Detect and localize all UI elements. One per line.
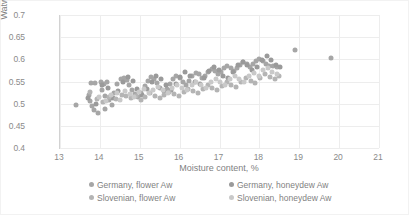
data-point bbox=[259, 58, 264, 63]
data-point bbox=[157, 96, 162, 101]
x-tick-label: 18 bbox=[243, 152, 273, 162]
x-tick-label: 13 bbox=[44, 152, 74, 162]
y-tick-label: 0.65 bbox=[0, 32, 25, 42]
legend-label: Germany, flower Aw bbox=[97, 180, 172, 190]
data-point bbox=[104, 98, 109, 103]
data-point bbox=[207, 68, 212, 73]
legend-item[interactable]: Slovenian, flower Aw bbox=[89, 193, 217, 203]
legend-item[interactable]: Slovenian, honeydew Aw bbox=[229, 193, 379, 203]
y-tick-label: 0.6 bbox=[0, 54, 25, 64]
data-point bbox=[216, 67, 221, 72]
x-tick-label: 19 bbox=[283, 152, 313, 162]
data-point bbox=[105, 79, 110, 84]
x-tick-label: 21 bbox=[363, 152, 393, 162]
data-point bbox=[195, 91, 200, 96]
y-tick-label: 0.5 bbox=[0, 99, 25, 109]
data-point bbox=[256, 73, 261, 78]
data-point bbox=[293, 48, 298, 53]
legend-item[interactable]: Germany, honeydew Aw bbox=[229, 180, 379, 190]
data-point bbox=[109, 102, 114, 107]
data-point bbox=[159, 77, 164, 82]
data-point bbox=[115, 82, 120, 87]
data-point bbox=[85, 96, 90, 101]
data-point bbox=[234, 84, 239, 89]
data-point bbox=[73, 103, 78, 108]
data-point bbox=[235, 63, 240, 68]
data-point bbox=[223, 82, 228, 87]
data-point bbox=[215, 88, 220, 93]
data-point bbox=[203, 85, 208, 90]
legend-label: Slovenian, flower Aw bbox=[97, 193, 175, 203]
data-point bbox=[97, 94, 102, 99]
x-tick-label: 14 bbox=[84, 152, 114, 162]
data-point bbox=[93, 81, 98, 86]
data-point bbox=[187, 73, 192, 78]
data-point bbox=[121, 80, 126, 85]
data-point bbox=[274, 72, 279, 77]
data-point bbox=[269, 58, 274, 63]
gridline-vertical bbox=[339, 15, 340, 148]
legend-item[interactable]: Germany, flower Aw bbox=[89, 180, 217, 190]
gridline-vertical bbox=[379, 15, 380, 148]
legend-marker-icon bbox=[89, 195, 94, 200]
data-point bbox=[165, 91, 170, 96]
chart-legend: Germany, flower AwGermany, honeydew AwSl… bbox=[89, 178, 379, 204]
data-point bbox=[245, 62, 250, 67]
gridline-vertical bbox=[299, 15, 300, 148]
legend-label: Slovenian, honeydew Aw bbox=[237, 193, 331, 203]
data-point bbox=[254, 65, 259, 70]
data-point bbox=[184, 88, 189, 93]
y-tick-label: 0.55 bbox=[0, 77, 25, 87]
data-point bbox=[130, 78, 135, 83]
data-point bbox=[99, 83, 104, 88]
data-point bbox=[100, 87, 105, 92]
scatter-chart: Watwe activity 0.40.450.50.550.60.650.7 … bbox=[0, 0, 409, 215]
gridline-horizontal bbox=[60, 148, 379, 149]
x-tick-label: 17 bbox=[204, 152, 234, 162]
y-tick-label: 0.4 bbox=[0, 143, 25, 153]
y-tick-label: 0.7 bbox=[0, 10, 25, 20]
data-point bbox=[132, 95, 137, 100]
x-axis-title: Moisture content, % bbox=[59, 163, 379, 173]
y-tick-label: 0.45 bbox=[0, 121, 25, 131]
data-point bbox=[117, 98, 122, 103]
legend-label: Germany, honeydew Aw bbox=[237, 180, 328, 190]
data-point bbox=[114, 90, 119, 95]
gridline-vertical bbox=[140, 15, 141, 148]
x-tick-label: 16 bbox=[164, 152, 194, 162]
legend-marker-icon bbox=[89, 182, 94, 187]
data-point bbox=[329, 56, 334, 61]
plot-area bbox=[59, 15, 379, 149]
data-point bbox=[109, 93, 114, 98]
data-point bbox=[202, 75, 207, 80]
data-point bbox=[105, 85, 110, 90]
data-point bbox=[176, 94, 181, 99]
data-point bbox=[253, 80, 258, 85]
gridline-vertical bbox=[259, 15, 260, 148]
data-point bbox=[87, 89, 92, 94]
data-point bbox=[149, 79, 154, 84]
legend-marker-icon bbox=[229, 182, 234, 187]
data-point bbox=[242, 79, 247, 84]
gridline-vertical bbox=[60, 15, 61, 148]
data-point bbox=[93, 101, 98, 106]
x-tick-label: 20 bbox=[323, 152, 353, 162]
data-point bbox=[102, 106, 107, 111]
data-point bbox=[278, 64, 283, 69]
data-point bbox=[151, 88, 156, 93]
x-tick-label: 15 bbox=[124, 152, 154, 162]
data-point bbox=[122, 88, 127, 93]
data-point bbox=[178, 74, 183, 79]
legend-marker-icon bbox=[229, 195, 234, 200]
data-point bbox=[95, 110, 100, 115]
